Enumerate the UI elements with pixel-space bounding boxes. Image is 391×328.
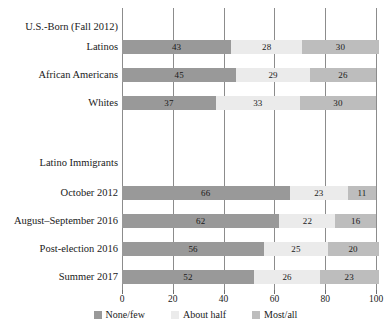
- group-header: U.S.-Born (Fall 2012): [0, 20, 118, 34]
- table-row: 622216: [122, 214, 376, 228]
- bar-value-label: 29: [268, 71, 277, 80]
- bar-segment: 28: [231, 40, 302, 54]
- bar-value-label: 16: [351, 217, 360, 226]
- bar-value-label: 26: [338, 71, 347, 80]
- bar-segment: 30: [302, 40, 378, 54]
- bar-segment: 22: [279, 214, 335, 228]
- legend-item[interactable]: None/few: [94, 310, 145, 320]
- bar-value-label: 66: [201, 189, 210, 198]
- legend-swatch-icon: [171, 311, 179, 319]
- x-tick-label: 80: [320, 295, 330, 305]
- bar-segment: 16: [335, 214, 376, 228]
- row-label: Whites: [0, 96, 118, 110]
- bar-segment: 23: [290, 186, 348, 200]
- bar-value-label: 23: [345, 273, 354, 282]
- bar-segment: 26: [310, 68, 376, 82]
- bar-segment: 43: [122, 40, 231, 54]
- x-tick-label: 100: [369, 295, 383, 305]
- bar-segment: 29: [236, 68, 310, 82]
- category-labels-column: U.S.-Born (Fall 2012)LatinosAfrican Amer…: [0, 8, 118, 290]
- bar-segment: 33: [216, 96, 300, 110]
- bar-value-label: 62: [196, 217, 205, 226]
- bar-value-label: 33: [253, 99, 262, 108]
- legend: None/fewAbout halfMost/all: [0, 310, 391, 320]
- legend-swatch-icon: [94, 311, 102, 319]
- bar-segment: 11: [348, 186, 376, 200]
- bar-value-label: 52: [183, 273, 192, 282]
- group-header: Latino Immigrants: [0, 156, 118, 170]
- bar-value-label: 25: [291, 245, 300, 254]
- table-row: 562520: [122, 242, 376, 256]
- row-label: August–September 2016: [0, 214, 118, 228]
- bar-value-label: 37: [164, 99, 173, 108]
- legend-label: About half: [183, 310, 226, 320]
- legend-item[interactable]: Most/all: [252, 310, 297, 320]
- bar-segment: 23: [320, 270, 378, 284]
- bar-value-label: 23: [314, 189, 323, 198]
- bar-segment: 52: [122, 270, 254, 284]
- bar-value-label: 11: [357, 189, 366, 198]
- table-row: 662311: [122, 186, 376, 200]
- bar-value-label: 56: [188, 245, 197, 254]
- table-row: 373330: [122, 96, 376, 110]
- legend-swatch-icon: [252, 311, 260, 319]
- bar-segment: 62: [122, 214, 279, 228]
- bar-segment: 25: [264, 242, 328, 256]
- bar-value-label: 28: [262, 43, 271, 52]
- bar-segment: 26: [254, 270, 320, 284]
- bar-segment: 56: [122, 242, 264, 256]
- bar-value-label: 20: [348, 245, 357, 254]
- table-row: 432830: [122, 40, 376, 54]
- bar-value-label: 43: [172, 43, 181, 52]
- legend-item[interactable]: About half: [171, 310, 226, 320]
- bar-segment: 45: [122, 68, 236, 82]
- bar-value-label: 30: [336, 43, 345, 52]
- x-tick-label: 0: [120, 295, 125, 305]
- bar-segment: 66: [122, 186, 290, 200]
- bar-value-label: 30: [333, 99, 342, 108]
- legend-label: Most/all: [264, 310, 297, 320]
- bar-value-label: 22: [303, 217, 312, 226]
- row-label: Summer 2017: [0, 270, 118, 284]
- bar-value-label: 26: [282, 273, 291, 282]
- bar-segment: 30: [300, 96, 376, 110]
- row-label: October 2012: [0, 186, 118, 200]
- bar-segment: 20: [328, 242, 379, 256]
- table-row: 452926: [122, 68, 376, 82]
- plot-area: 4328304529263733306623116222165625205226…: [122, 8, 376, 290]
- row-label: Latinos: [0, 40, 118, 54]
- row-label: African Americans: [0, 68, 118, 82]
- bar-value-label: 45: [174, 71, 183, 80]
- x-tick-label: 60: [270, 295, 280, 305]
- x-axis: 020406080100: [122, 290, 376, 308]
- x-tick-label: 20: [168, 295, 178, 305]
- table-row: 522623: [122, 270, 376, 284]
- x-tick-label: 40: [219, 295, 229, 305]
- row-label: Post-election 2016: [0, 242, 118, 256]
- stacked-bar-chart: U.S.-Born (Fall 2012)LatinosAfrican Amer…: [0, 0, 391, 328]
- legend-label: None/few: [106, 310, 145, 320]
- bar-segment: 37: [122, 96, 216, 110]
